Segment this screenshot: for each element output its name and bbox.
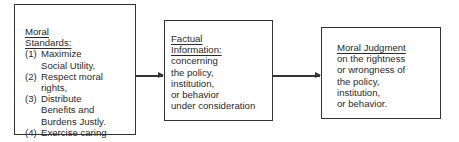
factual-title-1: Factual xyxy=(171,33,255,44)
factual-information-text: Factual Information: concerning the poli… xyxy=(171,33,255,111)
moral-judgment-text: Moral Judgment on the rightness or wrong… xyxy=(337,42,406,109)
standard-item-3: (3) DistributeBenefits andBurdens Justly… xyxy=(25,93,107,127)
arrow-standards-to-facts xyxy=(136,75,163,77)
standard-item-1: (1) MaximizeSocial Utility, xyxy=(25,48,107,70)
standard-item-4: (4) Exercise caring xyxy=(25,127,107,138)
moral-judgment-title: Moral Judgment xyxy=(337,42,406,53)
moral-standards-title-1: Moral xyxy=(25,26,107,37)
moral-standards-text: Moral Standards: (1) MaximizeSocial Util… xyxy=(25,26,107,138)
moral-standards-title-2: Standards: xyxy=(25,37,107,48)
arrow-facts-to-judgment xyxy=(273,75,320,77)
standard-item-2: (2) Respect moralrights, xyxy=(25,71,107,93)
factual-title-2: Information: xyxy=(171,44,255,55)
